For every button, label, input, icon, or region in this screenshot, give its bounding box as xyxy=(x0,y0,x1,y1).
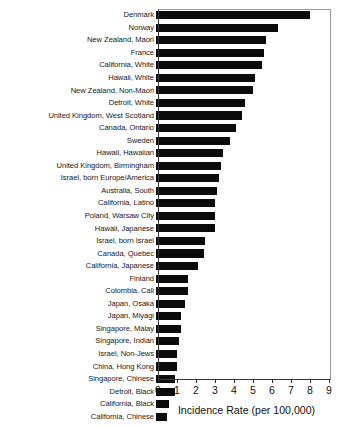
bar xyxy=(156,162,221,170)
bar xyxy=(156,350,177,358)
bar-row: California, Japanese xyxy=(0,260,342,273)
bar-row: United Kingdom, Birmingham xyxy=(0,160,342,173)
bar-track xyxy=(156,59,342,72)
category-label: Israel, Non-Jews xyxy=(0,350,156,358)
bar-track xyxy=(156,122,342,135)
bar-track xyxy=(156,360,342,373)
bar-track xyxy=(156,197,342,210)
category-label: California, Latino xyxy=(0,199,156,207)
category-label: United Kingdom, West Scotland xyxy=(0,112,156,120)
x-axis-tick-label: 9 xyxy=(322,384,336,396)
x-axis-tick-label: 3 xyxy=(208,384,222,396)
bar xyxy=(156,36,266,44)
bar xyxy=(156,262,198,270)
bar-row: Israel, Non-Jews xyxy=(0,348,342,361)
bar-track xyxy=(156,47,342,60)
bar xyxy=(156,237,205,245)
bar-row: Detroit, White xyxy=(0,97,342,110)
category-label: Poland, Warsaw City xyxy=(0,212,156,220)
x-axis-tick xyxy=(291,379,292,383)
bar xyxy=(156,74,255,82)
bar-track xyxy=(156,235,342,248)
bar-row: Singapore, Indian xyxy=(0,335,342,348)
bar-track xyxy=(156,147,342,160)
bar xyxy=(156,300,185,308)
bar-row: California, Latino xyxy=(0,197,342,210)
bar-track xyxy=(156,172,342,185)
bar-row: Japan, Miyagi xyxy=(0,310,342,323)
category-label: United Kingdom, Birmingham xyxy=(0,162,156,170)
bar xyxy=(156,337,179,345)
category-label: Japan, Miyagi xyxy=(0,312,156,320)
category-label: Hawaii, Hawaiian xyxy=(0,149,156,157)
x-axis-tick-label: 4 xyxy=(227,384,241,396)
category-label: Israel, born Europe/America xyxy=(0,174,156,182)
category-label: California, Black xyxy=(0,400,156,408)
x-axis-tick xyxy=(329,379,330,383)
bar-track xyxy=(156,260,342,273)
bar-track xyxy=(156,298,342,311)
x-axis-tick-label: 2 xyxy=(189,384,203,396)
x-axis-tick-label: 1 xyxy=(170,384,184,396)
bar xyxy=(156,325,181,333)
category-label: France xyxy=(0,49,156,57)
category-label: New Zealand, Non-Maori xyxy=(0,87,156,95)
bar-row: New Zealand, Non-Maori xyxy=(0,84,342,97)
bar xyxy=(156,174,219,182)
bar-row: Israel, born Europe/America xyxy=(0,172,342,185)
bar-row: Australia, South xyxy=(0,185,342,198)
bar-track xyxy=(156,109,342,122)
x-axis-tick-label: 5 xyxy=(246,384,260,396)
bar-row: Hawaii, Hawaiian xyxy=(0,147,342,160)
bar xyxy=(156,187,217,195)
bar-row: Israel, born Israel xyxy=(0,235,342,248)
x-axis-tick xyxy=(215,379,216,383)
bar-track xyxy=(156,272,342,285)
bar xyxy=(156,61,262,69)
category-label: Detroit, White xyxy=(0,99,156,107)
category-label: New Zealand, Maori xyxy=(0,36,156,44)
bar-row: Poland, Warsaw City xyxy=(0,210,342,223)
x-axis-tick xyxy=(196,379,197,383)
x-axis-tick xyxy=(310,379,311,383)
bar-track xyxy=(156,285,342,298)
bar-track xyxy=(156,134,342,147)
category-label: Norway xyxy=(0,24,156,32)
category-label: California, White xyxy=(0,61,156,69)
bar-track xyxy=(156,22,342,35)
bar-row: Canada, Quebec xyxy=(0,247,342,260)
bar xyxy=(156,312,181,320)
bar xyxy=(156,275,188,283)
bar xyxy=(156,86,253,94)
x-axis-tick-label: 6 xyxy=(265,384,279,396)
bar-rows-container: DenmarkNorwayNew Zealand, MaoriFranceCal… xyxy=(0,9,342,423)
category-label: Hawaii, White xyxy=(0,74,156,82)
bar-row: Norway xyxy=(0,22,342,35)
bar-chart: DenmarkNorwayNew Zealand, MaoriFranceCal… xyxy=(0,0,342,428)
bar-track xyxy=(156,185,342,198)
bar-track xyxy=(156,160,342,173)
bar xyxy=(156,362,177,370)
bar-row: United Kingdom, West Scotland xyxy=(0,109,342,122)
bar-track xyxy=(156,72,342,85)
category-label: Singapore, Malay xyxy=(0,325,156,333)
bar-track xyxy=(156,310,342,323)
category-label: Hawaii, Japanese xyxy=(0,225,156,233)
x-axis-tick xyxy=(272,379,273,383)
bar-track xyxy=(156,9,342,22)
bar-row: China, Hong Kong xyxy=(0,360,342,373)
bar-track xyxy=(156,210,342,223)
bar-row: Hawaii, White xyxy=(0,72,342,85)
bar xyxy=(156,287,188,295)
category-label: Australia, South xyxy=(0,187,156,195)
bar-row: France xyxy=(0,47,342,60)
x-axis-tick xyxy=(177,379,178,383)
bar-row: Finland xyxy=(0,272,342,285)
category-label: Japan, Osaka xyxy=(0,300,156,308)
category-label: Canada, Ontario xyxy=(0,124,156,132)
category-label: Singapore, Chinese xyxy=(0,375,156,383)
bar-row: New Zealand, Maori xyxy=(0,34,342,47)
bar-row: Colombia, Cali xyxy=(0,285,342,298)
bar xyxy=(156,249,204,257)
bar xyxy=(156,212,215,220)
